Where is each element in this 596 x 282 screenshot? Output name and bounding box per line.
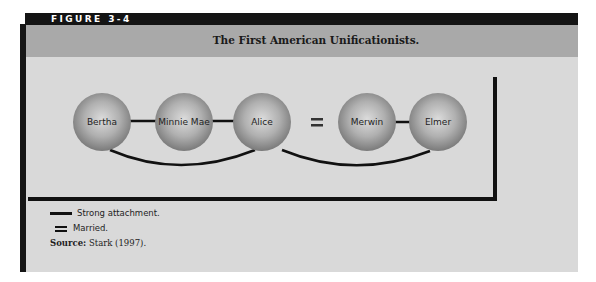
source-text: Stark (1997). (89, 238, 146, 248)
node-minnie-mae: Minnie Mae (155, 93, 213, 151)
married-symbol-icon (311, 118, 323, 127)
edge-bertha-alice-arc (110, 150, 255, 165)
solid-line-icon (50, 212, 72, 215)
edge-alice-elmer-arc (282, 150, 430, 165)
node-bertha: Bertha (73, 93, 131, 151)
legend-label: Strong attachment. (77, 208, 160, 218)
legend-item-strong-attachment: Strong attachment. (50, 208, 160, 218)
double-line-icon (55, 225, 67, 233)
source-note: Source: Stark (1997). (50, 238, 146, 248)
legend-item-married: Married. (50, 223, 108, 233)
node-merwin: Merwin (338, 93, 396, 151)
legend-label: Married. (73, 223, 108, 233)
node-label: Bertha (87, 117, 117, 127)
node-label: Merwin (351, 117, 384, 127)
node-alice: Alice (233, 93, 291, 151)
node-label: Alice (251, 117, 273, 127)
node-elmer: Elmer (409, 93, 467, 151)
source-label: Source: (50, 238, 86, 248)
node-label: Elmer (425, 117, 451, 127)
node-label: Minnie Mae (158, 117, 210, 127)
